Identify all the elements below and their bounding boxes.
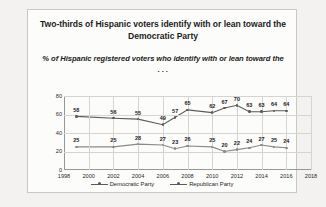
data-point-label: 58: [66, 107, 86, 113]
x-axis-tick-label: 2018: [296, 173, 326, 179]
legend-item-democratic: Democratic Party: [91, 181, 154, 187]
data-point-label: 65: [178, 100, 198, 106]
data-point-marker: [248, 110, 251, 113]
y-axis-tick-label: 0: [46, 167, 62, 173]
plot-area: 5856554957656267706363646425252827232625…: [64, 96, 311, 170]
gridline-vertical: [188, 96, 189, 170]
legend-marker-republican-icon: [170, 182, 187, 187]
data-point-marker: [223, 150, 226, 153]
data-point-label: 55: [128, 110, 148, 116]
gridline-vertical: [311, 96, 312, 170]
data-point-marker: [75, 146, 78, 149]
data-point-label: 26: [178, 136, 198, 142]
data-point-marker: [75, 115, 78, 118]
y-axis-tick-label: 80: [46, 93, 62, 99]
data-point-marker: [260, 110, 263, 113]
y-axis-tick-label: 60: [46, 111, 62, 117]
data-point-label: 56: [103, 109, 123, 115]
data-point-label: 25: [103, 137, 123, 143]
data-point-marker: [186, 109, 189, 112]
data-point-marker: [248, 147, 251, 150]
data-point-label: 64: [276, 101, 296, 107]
y-axis-labels: 020406080: [45, 96, 62, 170]
gridline-vertical: [237, 96, 238, 170]
legend-item-republican: Republican Party: [170, 181, 233, 187]
gridline-vertical: [163, 96, 164, 170]
gridline-vertical: [89, 96, 90, 170]
data-point-label: 70: [227, 96, 247, 102]
data-point-label: 24: [276, 138, 296, 144]
data-point-marker: [285, 147, 288, 150]
chart-legend: Democratic Party Republican Party: [27, 178, 297, 190]
page-title: Two-thirds of Hispanic voters identify w…: [38, 19, 288, 42]
legend-label-republican: Republican Party: [189, 181, 233, 187]
page-background: Two-thirds of Hispanic voters identify w…: [0, 0, 326, 207]
y-axis-tick-label: 20: [46, 148, 62, 154]
data-point-label: 57: [165, 108, 185, 114]
data-point-marker: [186, 145, 189, 148]
data-point-label: 28: [128, 135, 148, 141]
data-point-marker: [162, 123, 165, 126]
chart-card: Two-thirds of Hispanic voters identify w…: [27, 9, 297, 193]
legend-label-democratic: Democratic Party: [110, 181, 154, 187]
chart-subtitle: % of Hispanic registered voters who iden…: [42, 54, 284, 75]
data-point-label: 49: [153, 115, 173, 121]
data-point-marker: [112, 146, 115, 149]
y-axis-tick-label: 40: [46, 130, 62, 136]
data-point-marker: [285, 110, 288, 113]
gridline-vertical: [113, 96, 114, 170]
legend-marker-democratic-icon: [91, 182, 108, 187]
data-point-label: 25: [66, 137, 86, 143]
data-point-marker: [236, 148, 239, 151]
gridline-vertical: [138, 96, 139, 170]
data-point-marker: [236, 104, 239, 107]
